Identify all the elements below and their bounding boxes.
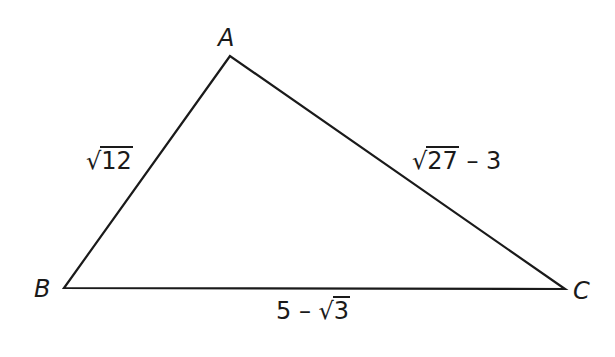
sqrt-expression: √12: [86, 146, 133, 173]
vertex-label-a: A: [218, 26, 234, 50]
vertex-label-b: B: [34, 277, 50, 301]
side-label-ac: √27 – 3: [412, 146, 501, 173]
side-label-ab: √12: [86, 146, 133, 173]
sqrt-expression: √27: [412, 146, 459, 173]
sqrt-expression: √3: [319, 296, 351, 323]
radical-sign-icon: √: [319, 299, 334, 323]
radical-sign-icon: √: [86, 149, 101, 173]
vertex-label-c: C: [573, 279, 590, 303]
triangle-diagram: A B C √12 √27 – 3 5 – √3: [0, 0, 615, 357]
side-label-bc: 5 – √3: [276, 296, 350, 323]
radical-sign-icon: √: [412, 149, 427, 173]
